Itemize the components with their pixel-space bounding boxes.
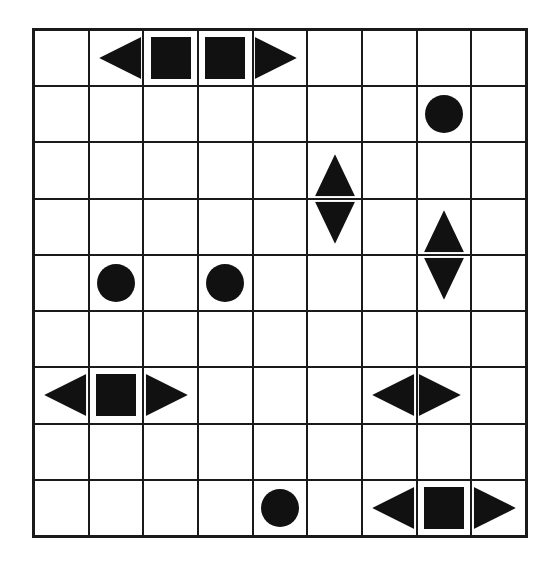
grid-cell-r8-c8[interactable] <box>471 480 526 536</box>
grid-cell-r7-c4[interactable] <box>253 424 308 480</box>
grid-cell-r7-c2[interactable] <box>143 424 198 480</box>
grid-cell-r5-c0[interactable] <box>34 311 89 367</box>
grid-cell-r6-c4[interactable] <box>253 367 308 423</box>
ship-circle-icon <box>260 488 300 528</box>
ship-bottom-end-icon <box>315 202 355 244</box>
grid-cell-r2-c6[interactable] <box>362 142 417 198</box>
grid-cell-r0-c4[interactable] <box>253 30 308 86</box>
grid-cell-r8-c1[interactable] <box>89 480 144 536</box>
grid-cell-r1-c1[interactable] <box>89 86 144 142</box>
grid-cell-r8-c5[interactable] <box>307 480 362 536</box>
grid-cell-r7-c6[interactable] <box>362 424 417 480</box>
ship-left-end-icon <box>373 487 415 529</box>
grid-cell-r0-c0[interactable] <box>34 30 89 86</box>
ship-right-end-icon <box>255 37 297 79</box>
grid-cell-r5-c2[interactable] <box>143 311 198 367</box>
grid-cell-r8-c0[interactable] <box>34 480 89 536</box>
ship-square-icon <box>96 374 136 416</box>
grid-cell-r5-c3[interactable] <box>198 311 253 367</box>
grid-cell-r4-c7[interactable] <box>417 255 472 311</box>
grid-cell-r2-c4[interactable] <box>253 142 308 198</box>
grid-cell-r5-c1[interactable] <box>89 311 144 367</box>
grid-cell-r6-c6[interactable] <box>362 367 417 423</box>
grid-cell-r4-c5[interactable] <box>307 255 362 311</box>
grid-cell-r8-c6[interactable] <box>362 480 417 536</box>
grid-cell-r2-c8[interactable] <box>471 142 526 198</box>
grid-cell-r6-c3[interactable] <box>198 367 253 423</box>
grid-cell-r3-c1[interactable] <box>89 199 144 255</box>
grid-cell-r4-c8[interactable] <box>471 255 526 311</box>
grid-cell-r0-c6[interactable] <box>362 30 417 86</box>
grid-cell-r7-c1[interactable] <box>89 424 144 480</box>
grid-cell-r4-c0[interactable] <box>34 255 89 311</box>
grid-cell-r1-c5[interactable] <box>307 86 362 142</box>
grid-cell-r2-c1[interactable] <box>89 142 144 198</box>
grid-cell-r6-c5[interactable] <box>307 367 362 423</box>
grid-cell-r3-c6[interactable] <box>362 199 417 255</box>
grid-cell-r4-c4[interactable] <box>253 255 308 311</box>
grid-cell-r6-c8[interactable] <box>471 367 526 423</box>
ship-right-end-icon <box>473 487 515 529</box>
grid-cell-r3-c2[interactable] <box>143 199 198 255</box>
grid-cell-r5-c8[interactable] <box>471 311 526 367</box>
grid-cell-r2-c5[interactable] <box>307 142 362 198</box>
ship-square-icon <box>205 37 245 79</box>
grid-cell-r3-c4[interactable] <box>253 199 308 255</box>
grid-cell-r4-c2[interactable] <box>143 255 198 311</box>
grid-cell-r7-c3[interactable] <box>198 424 253 480</box>
grid-cell-r1-c8[interactable] <box>471 86 526 142</box>
ship-square-icon <box>151 37 191 79</box>
grid-cell-r2-c7[interactable] <box>417 142 472 198</box>
grid-cell-r3-c7[interactable] <box>417 199 472 255</box>
ship-square-icon <box>424 487 464 529</box>
grid-cell-r1-c3[interactable] <box>198 86 253 142</box>
grid-cell-r5-c4[interactable] <box>253 311 308 367</box>
grid-cell-r1-c4[interactable] <box>253 86 308 142</box>
ship-circle-icon <box>205 263 245 303</box>
grid-cell-r7-c8[interactable] <box>471 424 526 480</box>
grid-cell-r3-c0[interactable] <box>34 199 89 255</box>
grid-cell-r6-c0[interactable] <box>34 367 89 423</box>
ship-right-end-icon <box>419 374 461 416</box>
grid-cell-r1-c6[interactable] <box>362 86 417 142</box>
ship-right-end-icon <box>145 374 187 416</box>
grid-cell-r8-c4[interactable] <box>253 480 308 536</box>
grid-cell-r2-c0[interactable] <box>34 142 89 198</box>
grid-cell-r4-c6[interactable] <box>362 255 417 311</box>
grid-cell-r8-c7[interactable] <box>417 480 472 536</box>
grid-cell-r5-c5[interactable] <box>307 311 362 367</box>
grid-cell-r0-c3[interactable] <box>198 30 253 86</box>
grid-cell-r6-c2[interactable] <box>143 367 198 423</box>
ship-left-end-icon <box>373 374 415 416</box>
grid-cell-r4-c3[interactable] <box>198 255 253 311</box>
grid-cell-r8-c3[interactable] <box>198 480 253 536</box>
grid-cell-r0-c1[interactable] <box>89 30 144 86</box>
grid-cell-r7-c0[interactable] <box>34 424 89 480</box>
grid-cell-r3-c3[interactable] <box>198 199 253 255</box>
grid-cell-r0-c8[interactable] <box>471 30 526 86</box>
ship-left-end-icon <box>45 374 87 416</box>
grid-cell-r0-c5[interactable] <box>307 30 362 86</box>
grid-cell-r1-c2[interactable] <box>143 86 198 142</box>
grid-cell-r2-c2[interactable] <box>143 142 198 198</box>
ship-bottom-end-icon <box>424 258 464 300</box>
grid-cell-r6-c7[interactable] <box>417 367 472 423</box>
grid-cell-r3-c5[interactable] <box>307 199 362 255</box>
grid-cell-r2-c3[interactable] <box>198 142 253 198</box>
puzzle-grid <box>32 28 528 538</box>
grid-cell-r4-c1[interactable] <box>89 255 144 311</box>
grid-cell-r6-c1[interactable] <box>89 367 144 423</box>
ship-left-end-icon <box>99 37 141 79</box>
ship-top-end-icon <box>424 210 464 252</box>
grid-cell-r3-c8[interactable] <box>471 199 526 255</box>
grid-cell-r8-c2[interactable] <box>143 480 198 536</box>
grid-cell-r1-c7[interactable] <box>417 86 472 142</box>
grid-cell-r7-c5[interactable] <box>307 424 362 480</box>
grid-cell-r5-c7[interactable] <box>417 311 472 367</box>
grid-cell-r0-c2[interactable] <box>143 30 198 86</box>
grid-cell-r1-c0[interactable] <box>34 86 89 142</box>
grid-cell-r5-c6[interactable] <box>362 311 417 367</box>
grid-cell-r7-c7[interactable] <box>417 424 472 480</box>
grid-cell-r0-c7[interactable] <box>417 30 472 86</box>
ship-circle-icon <box>424 94 464 134</box>
